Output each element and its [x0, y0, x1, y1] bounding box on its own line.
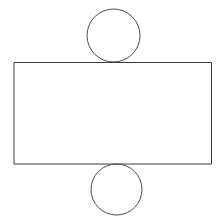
figure-canvas: [0, 0, 222, 224]
canvas-background: [0, 0, 222, 224]
geometric-figure-svg: [0, 0, 222, 224]
